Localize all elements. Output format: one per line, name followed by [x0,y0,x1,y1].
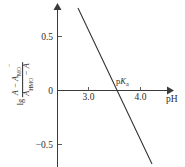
pka-annotation-subscript: a [126,80,129,87]
figure-container: 3.0 4.0 0.5 0 −0.5 pH pKa lg A − AMO− AH… [0,0,185,167]
x-axis-title: pH [166,94,178,104]
y-tick-label-0: 0 [48,86,53,96]
pka-annotation: pKa [116,76,129,87]
data-line-series-1 [78,8,152,164]
x-tick-label-3.0: 3.0 [83,92,95,102]
plot-canvas: 3.0 4.0 0.5 0 −0.5 pH pKa [0,0,185,167]
y-tick-label-0.5: 0.5 [41,32,53,42]
y-axis-arrow-icon [54,3,62,10]
y-tick-label-minus-0.5: −0.5 [36,140,53,150]
x-tick-label-4.0: 4.0 [135,92,147,102]
